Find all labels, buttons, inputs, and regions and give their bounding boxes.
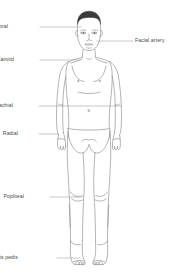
label-dorsalis-pedis: Dorsalis pedis xyxy=(0,255,18,260)
anatomy-diagram: TemporalFacial arteryCarotidBrachialRadi… xyxy=(0,0,178,279)
hair-shape xyxy=(77,11,100,24)
label-popliteal: Popliteal xyxy=(3,194,24,199)
label-brachial: Brachial xyxy=(0,103,13,108)
underwear-shape xyxy=(68,129,110,154)
label-temporal: Temporal xyxy=(0,24,8,29)
neck-and-torso-outline xyxy=(66,50,112,138)
label-radial: Radial xyxy=(3,131,18,136)
label-facial-artery: Facial artery xyxy=(135,38,165,43)
head-outline xyxy=(76,24,103,51)
label-carotid: Carotid xyxy=(0,57,14,62)
